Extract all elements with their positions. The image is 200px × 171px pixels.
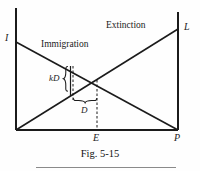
- figure-graphic: [0, 0, 200, 171]
- curve-label-immigration: Immigration: [41, 40, 89, 50]
- d-brace: [74, 99, 97, 103]
- figure-caption: Fig. 5-15: [0, 148, 200, 159]
- curve-label-extinction: Extinction: [106, 21, 146, 31]
- axis-label-L: L: [184, 22, 190, 32]
- axis-label-I: I: [5, 33, 8, 43]
- brace-label-d: D: [81, 106, 88, 115]
- axis-label-E: E: [93, 133, 99, 143]
- axis-label-P: P: [174, 133, 180, 143]
- brace-label-kd: kD: [49, 74, 60, 83]
- figure-container: I L E P Immigration Extinction kD D Fig.…: [0, 0, 200, 171]
